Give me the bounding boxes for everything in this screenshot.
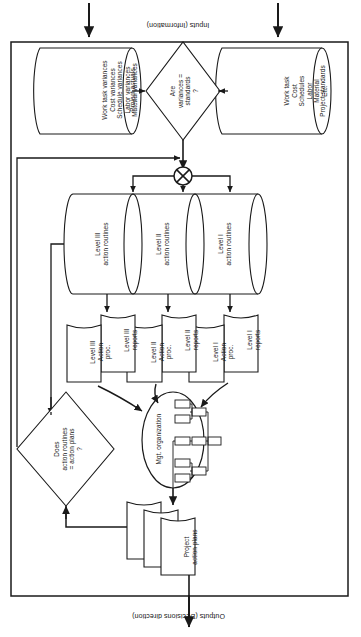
variance-decision-diamond [146,42,220,140]
plans-to-decision-line [66,506,127,527]
routines-to-reports-arrows [107,294,230,312]
flowchart-vector-layer [0,0,361,637]
flowchart-canvas: Outputs (Decisions direction) Inputs (In… [0,0,361,637]
mgt-organization-ellipse [142,392,221,488]
summation-node [174,167,192,185]
figure-rotator: Outputs (Decisions direction) Inputs (In… [0,0,361,637]
level-1-report-doc [224,315,258,372]
action-routines-decision-diamond [17,392,114,506]
routines-to-compare-line [51,244,64,415]
project-standards-cylinder [216,48,331,134]
level-3-action-proc-doc [67,325,101,382]
action-routines-cylinder-stack [64,194,267,294]
project-actuals-cylinder [34,48,141,134]
level-3-report-doc [101,315,135,372]
project-action-plans-doc-stack [127,502,195,575]
level-2-report-doc [162,315,196,372]
